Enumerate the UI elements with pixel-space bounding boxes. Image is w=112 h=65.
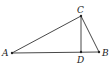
triangle-diagram: A B C D [0,0,112,65]
label-d: D [76,55,84,65]
segment-bc [81,16,99,52]
segment-ab [12,52,99,53]
label-c: C [77,5,84,15]
label-a: A [1,48,9,58]
point-a [11,52,13,54]
point-c [80,15,82,17]
label-b: B [101,48,109,58]
point-d [80,51,82,53]
segment-ac [12,16,81,53]
point-b [98,51,100,53]
